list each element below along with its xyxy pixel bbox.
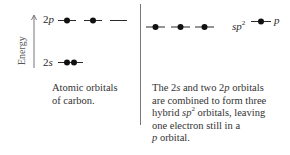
caption-text: orbitals (230, 82, 264, 93)
right-caption: The 2s and two 2p orbitals are combined … (152, 82, 290, 145)
caption-text: orbital. (157, 132, 190, 143)
right-caption-line-3: hybrid sp2 orbitals, leaving (152, 107, 290, 120)
right-caption-line-5: p orbital. (152, 132, 290, 145)
orbital-2s (58, 60, 83, 66)
left-caption-line: Atomic orbitals (52, 82, 140, 95)
caption-text: and two 2 (180, 82, 224, 93)
orbital-p (251, 19, 271, 25)
right-caption-line-2: are combined to form three (152, 95, 290, 108)
atomic-orbitals-diagram: 2p 2s Atomic orbitals of carbon. (0, 0, 140, 80)
electron-dot-icon (153, 24, 159, 30)
orbital-sp2-1 (146, 24, 165, 30)
sp2-label: sp2 (232, 21, 245, 32)
electron-dot-icon (202, 24, 208, 30)
caption-text: orbitals, leaving (195, 107, 265, 118)
left-caption-line: of carbon. (52, 95, 140, 108)
hybrid-orbital-lines (141, 0, 290, 60)
caption-text: The 2 (152, 82, 176, 93)
hybrid-orbitals-diagram: sp2 p The 2s and two 2p orbitals are com… (141, 0, 290, 80)
sp2-label-sup: 2 (242, 19, 246, 27)
electron-dot-icon (178, 24, 184, 30)
p-label: p (274, 15, 280, 26)
electron-dot-icon (64, 18, 70, 24)
electron-dot-icon (90, 18, 96, 24)
caption-italic: sp (182, 107, 191, 118)
electron-dot-icon (71, 60, 77, 66)
orbital-2p-2 (84, 18, 102, 24)
electron-dot-icon (258, 19, 264, 25)
electron-dot-icon (64, 60, 70, 66)
atomic-orbital-lines (0, 0, 140, 80)
orbital-sp2-2 (171, 24, 190, 30)
right-caption-line-4: one electron still in a (152, 120, 290, 133)
orbital-2p-1 (58, 18, 76, 24)
left-caption: Atomic orbitals of carbon. (52, 82, 140, 107)
caption-text: hybrid (152, 107, 182, 118)
sp2-label-base: sp (232, 20, 242, 32)
orbital-sp2-3 (195, 24, 214, 30)
right-caption-line-1: The 2s and two 2p orbitals (152, 82, 290, 95)
